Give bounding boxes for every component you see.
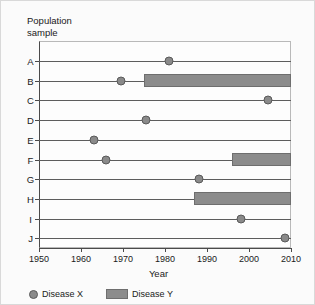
x-axis-tick-label: 1970 <box>113 254 133 264</box>
legend-item-disease-y: Disease Y <box>106 289 173 299</box>
disease-y-bar-h <box>194 192 291 205</box>
chart-figure: Population sample ABCDEFGHIJ 19501960197… <box>0 0 315 305</box>
row-baseline <box>39 120 291 121</box>
row-label-h: H <box>25 193 36 204</box>
x-axis-tick <box>39 248 40 252</box>
disease-x-dot-d <box>142 116 151 125</box>
row-label-e: E <box>25 134 36 145</box>
row-baseline <box>39 238 291 239</box>
row-label-a: A <box>25 56 36 67</box>
row-label-f: F <box>25 154 36 165</box>
row-label-c: C <box>25 95 36 106</box>
x-axis-tick <box>123 248 124 252</box>
bar-marker-icon <box>106 289 128 299</box>
x-axis-tick <box>207 248 208 252</box>
chart-legend: Disease X Disease Y <box>29 289 173 299</box>
disease-y-bar-f <box>232 153 291 166</box>
x-axis-tick-label: 1960 <box>71 254 91 264</box>
x-axis-tick-label: 2000 <box>239 254 259 264</box>
disease-x-dot-b <box>116 76 125 85</box>
disease-y-bar-b <box>144 74 291 87</box>
row-baseline <box>39 179 291 180</box>
x-axis-tick <box>249 248 250 252</box>
disease-x-dot-g <box>194 175 203 184</box>
y-axis-title: Population sample <box>27 15 72 38</box>
legend-item-disease-x: Disease X <box>29 289 83 299</box>
circle-marker-icon <box>29 290 38 299</box>
disease-x-dot-j <box>280 234 289 243</box>
x-axis-tick-label: 1990 <box>197 254 217 264</box>
legend-label-disease-y: Disease Y <box>132 289 173 299</box>
row-baseline <box>39 100 291 101</box>
disease-x-dot-i <box>236 214 245 223</box>
x-axis-tick <box>165 248 166 252</box>
row-label-b: B <box>25 75 36 86</box>
x-axis-tick <box>291 248 292 252</box>
row-baseline <box>39 219 291 220</box>
x-axis-tick-label: 1980 <box>155 254 175 264</box>
row-label-d: D <box>25 115 36 126</box>
disease-x-dot-e <box>89 135 98 144</box>
x-axis-tick-label: 2010 <box>281 254 301 264</box>
disease-x-dot-f <box>102 155 111 164</box>
legend-label-disease-x: Disease X <box>42 289 83 299</box>
disease-x-dot-a <box>165 57 174 66</box>
x-axis-title: Year <box>1 268 315 279</box>
x-axis-tick <box>81 248 82 252</box>
row-baseline <box>39 140 291 141</box>
disease-x-dot-c <box>263 96 272 105</box>
x-axis-tick-label: 1950 <box>29 254 49 264</box>
row-label-j: J <box>25 233 36 244</box>
row-label-g: G <box>25 174 36 185</box>
plot-area <box>39 41 291 248</box>
row-label-i: I <box>25 213 36 224</box>
